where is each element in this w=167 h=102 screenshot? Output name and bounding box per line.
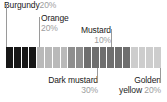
bar-segment-dark-mustard: [115, 47, 122, 68]
bar-segment-golden-yellow: [131, 47, 138, 68]
proportional-color-bar-chart: Burgundy20% Orange 20% Mustard 10% Dark …: [0, 0, 167, 102]
callout-dark-mustard-percent: 30%: [36, 86, 98, 96]
leader-line-burgundy: [6, 4, 7, 48]
bar-segment-dark-mustard: [123, 47, 130, 68]
bar-segment-dark-mustard: [100, 47, 107, 68]
bar-segment-golden-yellow: [139, 47, 146, 68]
bar-segment-orange: [53, 47, 60, 68]
callout-golden-yellow-name-line2: yellow: [119, 85, 142, 95]
leader-line-dark-mustard: [97, 67, 98, 83]
callout-orange-percent: 20%: [41, 24, 69, 34]
bar-segment-dark-mustard: [92, 47, 99, 68]
bar-segment-burgundy: [14, 47, 21, 68]
leader-line-mustard: [111, 29, 112, 48]
bar-segment-golden-yellow: [154, 47, 161, 68]
callout-burgundy-percent: 20%: [40, 0, 57, 10]
bar-segment-dark-mustard: [84, 47, 91, 68]
bar-segment-burgundy: [22, 47, 29, 68]
bar-segment-burgundy: [29, 47, 36, 68]
bar-segment-orange: [37, 47, 44, 68]
callout-burgundy-name: Burgundy: [4, 0, 40, 10]
bar-segment-burgundy: [6, 47, 13, 68]
bar-segment-orange: [45, 47, 52, 68]
callout-burgundy: Burgundy20%: [4, 1, 56, 11]
callout-mustard-percent: 10%: [66, 36, 111, 46]
callout-golden-yellow-percent: 20%: [144, 85, 161, 95]
leader-line-golden-yellow: [160, 67, 161, 83]
bar-segment-mustard: [76, 47, 83, 68]
bar-segment-golden-yellow: [146, 47, 153, 68]
callout-mustard: Mustard 10%: [66, 26, 111, 45]
callout-orange: Orange 20%: [41, 14, 69, 33]
bar-segment-mustard: [68, 47, 75, 68]
callout-golden-yellow: Golden yellow 20%: [104, 76, 161, 95]
bar-segment-orange: [61, 47, 68, 68]
stacked-bar: [6, 47, 161, 68]
leader-line-orange: [39, 17, 40, 48]
bar-segment-dark-mustard: [107, 47, 114, 68]
callout-dark-mustard: Dark mustard 30%: [36, 76, 98, 95]
